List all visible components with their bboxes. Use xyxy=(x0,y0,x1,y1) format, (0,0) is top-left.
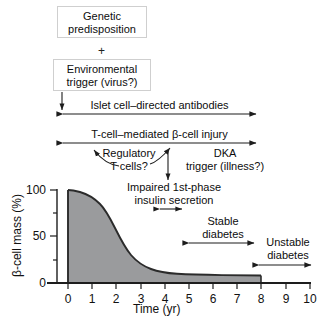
x-tick-label-8: 8 xyxy=(251,293,271,305)
x-tick-label-5: 5 xyxy=(179,293,199,305)
x-tick-label-6: 6 xyxy=(203,293,223,305)
x-tick-label-0: 0 xyxy=(58,293,78,305)
arrow-regulatory-right xyxy=(150,148,170,164)
y-axis-title: β-cell mass (%) xyxy=(11,194,23,277)
x-tick-label-10: 10 xyxy=(300,293,320,305)
arrow-regulatory-left xyxy=(94,150,119,166)
x-tick-label-7: 7 xyxy=(227,293,247,305)
area-beta-cell-mass xyxy=(68,190,261,283)
x-tick-label-9: 9 xyxy=(276,293,296,305)
x-tick-label-2: 2 xyxy=(106,293,126,305)
y-tick-label-0: 0 xyxy=(18,277,46,289)
x-axis-title: Time (yr) xyxy=(133,303,181,315)
x-tick-label-1: 1 xyxy=(82,293,102,305)
